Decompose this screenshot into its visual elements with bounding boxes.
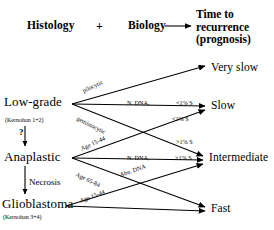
transition-label-question: ?: [19, 128, 24, 137]
node-low-grade-kernohan: (Kernohan 1+2): [5, 117, 44, 123]
outcome-slow: Slow: [211, 100, 235, 112]
outcome-fast: Fast: [211, 203, 231, 215]
header-plus-sign: +: [96, 20, 103, 32]
edge-label-s-phase-gt1-anaplastic: >1% S: [175, 155, 192, 161]
edge-label-s-phase-lt1-lowgrade: <1% S: [176, 100, 193, 106]
edge-label-normal-dna-anaplastic: N. DNA,: [127, 155, 150, 161]
edge-label-normal-dna-lowgrade: N. DNA,: [127, 100, 150, 106]
node-glioblastoma-kernohan: (Kernohan 3+4): [3, 214, 42, 220]
node-low-grade: Low-grade: [4, 95, 62, 108]
node-glioblastoma: Glioblastoma: [2, 197, 73, 210]
outcome-very-slow: Very slow: [211, 62, 258, 74]
header-histology: Histology: [27, 20, 75, 32]
diagram-canvas: Histology + Biology Time to recurrence (…: [0, 0, 274, 230]
header-biology: Biology: [128, 20, 166, 32]
header-time-to-recurrence: Time to recurrence (prognosis): [196, 8, 274, 46]
transition-label-necrosis: Necrosis: [29, 178, 61, 187]
edge-label-s-phase-lt1-anaplastic: <1% S: [172, 116, 189, 122]
edge-label-s-phase-gt1-lowgrade: >1% S: [176, 139, 193, 145]
node-anaplastic: Anaplastic: [4, 150, 61, 163]
edge-glioblastoma-fast: [66, 206, 205, 211]
outcome-intermediate: Intermediate: [209, 152, 268, 164]
edge-lowgrade-intermediate: [72, 104, 203, 156]
